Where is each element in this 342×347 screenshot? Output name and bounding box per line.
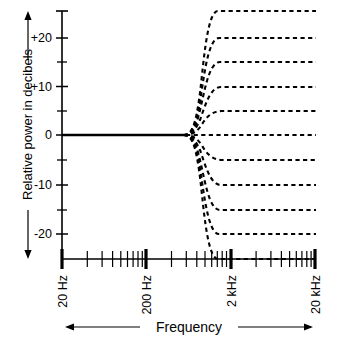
x-tick-label-20khz: 20 kHz xyxy=(309,275,323,314)
y-tick-label-minus10: -10 xyxy=(34,178,52,192)
y-tick-label-plus20: +20 xyxy=(31,31,52,45)
cut-curves xyxy=(62,135,316,259)
x-axis-right-arrow-icon xyxy=(238,323,313,330)
y-tick-label-plus10: +10 xyxy=(31,80,52,94)
curve-plus-10db xyxy=(62,87,316,135)
y-axis-down-arrow-icon xyxy=(24,210,31,259)
x-tick-label-2khz: 2 kHz xyxy=(225,275,239,307)
x-axis-label-group: Frequency xyxy=(65,319,313,335)
curve-minus-25db xyxy=(62,135,316,259)
x-tick-label-20hz: 20 Hz xyxy=(56,275,70,308)
boost-curves xyxy=(62,11,316,135)
x-tick-label-200hz: 200 Hz xyxy=(140,275,154,315)
chart-figure: Relative power in decibels +20 +10 0 -10… xyxy=(0,0,342,347)
curve-plus-25db xyxy=(62,11,316,135)
x-axis-title: Frequency xyxy=(156,319,222,335)
frequency-response-plot: Relative power in decibels +20 +10 0 -10… xyxy=(0,0,342,347)
curve-minus-10db xyxy=(62,135,316,185)
curve-plus-5db xyxy=(62,111,316,135)
x-axis-left-arrow-icon xyxy=(65,323,140,330)
curve-plus-15db xyxy=(62,62,316,135)
curve-minus-15db xyxy=(62,135,316,210)
y-axis-label-group: Relative power in decibels xyxy=(20,11,35,259)
curve-minus-5db xyxy=(62,135,316,160)
y-tick-label-zero: 0 xyxy=(45,128,52,142)
y-tick-label-minus20: -20 xyxy=(34,227,52,241)
y-axis-title: Relative power in decibels xyxy=(20,48,35,200)
